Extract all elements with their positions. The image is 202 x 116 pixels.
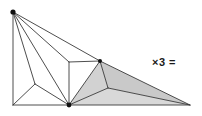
- edge-apex-to-bottom-center: [13, 12, 69, 105]
- edge-apex-to-upper-mid: [13, 12, 69, 62]
- multiplier-annotation: ×3 =: [152, 57, 176, 68]
- vertex-marker-bottom-center: [67, 103, 72, 108]
- edge-left-mid-to-bottom-left: [13, 84, 35, 105]
- figure-root: ×3 =: [0, 0, 202, 116]
- edge-left-mid-to-bottom-center: [35, 84, 69, 105]
- vertex-marker-apex: [10, 9, 15, 14]
- edge-upper-mid-to-ridge-top: [69, 61, 100, 62]
- vertex-marker-ridge-top: [98, 59, 102, 63]
